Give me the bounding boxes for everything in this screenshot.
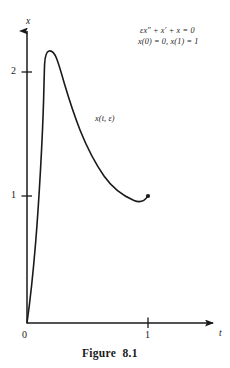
origin-label: 0 — [22, 330, 27, 340]
y-axis-label: x — [26, 17, 30, 27]
x-axis-label: t — [219, 329, 222, 339]
endpoint-dot — [146, 194, 150, 198]
equation-line-2: x(0) = 0, x(1) = 1 — [138, 38, 199, 46]
x-tick-label-1: 1 — [145, 330, 150, 340]
y-tick-label-1: 1 — [11, 190, 16, 200]
solution-curve — [27, 51, 148, 323]
y-tick-label-2: 2 — [11, 66, 16, 76]
plot-area — [0, 0, 230, 368]
figure-caption: Figure 8.1 — [82, 348, 138, 360]
figure-container: x t 2 1 0 1 εx″ + x′ + x = 0 x(0) = 0, x… — [0, 0, 230, 368]
curve-label: x(t, ε) — [95, 115, 115, 123]
equation-line-1: εx″ + x′ + x = 0 — [140, 27, 195, 35]
